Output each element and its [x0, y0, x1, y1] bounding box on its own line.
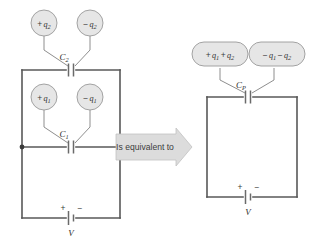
charge-label-plus-q1-plus-q2: +q1+q2 — [206, 50, 235, 61]
battery-right-label: V — [245, 207, 252, 217]
battery-left-minus-sign: − — [78, 203, 83, 213]
leader-minus-q1 — [75, 110, 90, 143]
leader-minus-q1-minus-q2 — [252, 68, 274, 93]
charge-label-minus-q1-minus-q2: −q1−q2 — [263, 50, 292, 61]
junction-dot-left — [20, 145, 25, 150]
capacitor-label-cp: CP — [236, 80, 246, 91]
diagram-canvas: +q2 −q2 +q1 −q1 C2 C1 + − V — [0, 0, 309, 250]
capacitor-label-c2: C2 — [59, 52, 69, 63]
battery-right-minus-sign: − — [255, 182, 260, 192]
battery-left-label: V — [68, 228, 75, 238]
arrow-label: Is equivalent to — [116, 142, 174, 152]
leader-minus-q2 — [75, 36, 90, 66]
right-circuit-group: +q1+q2 −q1−q2 CP + − V — [192, 42, 305, 217]
equivalence-connector: Is equivalent to — [116, 128, 192, 166]
battery-right-plus-sign: + — [238, 182, 243, 192]
left-circuit-group: +q2 −q2 +q1 −q1 C2 C1 + − V — [20, 10, 123, 238]
battery-left-plus-sign: + — [61, 203, 66, 213]
capacitor-label-c1: C1 — [59, 129, 68, 140]
circuit-diagram-svg: +q2 −q2 +q1 −q1 C2 C1 + − V — [0, 0, 309, 250]
